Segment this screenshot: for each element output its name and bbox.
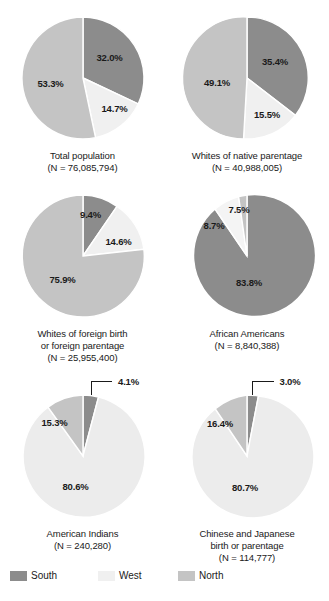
caption-title-line2: or foreign parentage xyxy=(37,340,127,352)
caption-subtitle: (N = 76,085,794) xyxy=(48,162,118,174)
caption-title: Whites of foreign birth xyxy=(37,328,127,340)
pie-graphic: 32.0% 14.7% 53.3% xyxy=(18,13,148,143)
chart-caption: Chinese and Japanese birth or parentage … xyxy=(199,528,294,564)
slice-north xyxy=(183,17,247,139)
caption-title: Total population xyxy=(48,150,118,162)
caption-subtitle: (N = 8,840,388) xyxy=(210,340,285,352)
pie-svg xyxy=(18,13,148,143)
caption-title: Whites of native parentage xyxy=(192,150,302,162)
pie-chart-figure: 32.0% 14.7% 53.3% Total population (N = … xyxy=(0,0,329,601)
pie-graphic: 9.4% 14.6% 75.9% xyxy=(18,191,148,321)
legend-label-west: West xyxy=(119,570,142,581)
pie-svg xyxy=(18,391,148,521)
pie-chart-whites-native-parentage: 35.4% 15.5% 49.1% Whites of native paren… xyxy=(165,0,329,175)
caption-title-line2: birth or parentage xyxy=(199,540,294,552)
legend-item-north: North xyxy=(178,570,223,581)
pie-chart-whites-foreign-birth: 9.4% 14.6% 75.9% Whites of foreign birth… xyxy=(0,175,165,355)
chart-caption: American Indians (N = 240,280) xyxy=(47,528,119,552)
chart-legend: South West North xyxy=(0,570,329,588)
caption-title: African Americans xyxy=(210,328,285,340)
leader-line-south xyxy=(253,381,274,382)
legend-swatch-west xyxy=(98,571,115,581)
pie-graphic: 7.5% 8.7% 83.8% xyxy=(182,191,312,321)
pie-chart-total-population: 32.0% 14.7% 53.3% Total population (N = … xyxy=(0,0,165,175)
leader-tick-south xyxy=(252,381,253,395)
legend-item-south: South xyxy=(10,570,57,581)
pie-svg xyxy=(182,191,312,321)
caption-subtitle: (N = 40,988,005) xyxy=(192,162,302,174)
pie-svg xyxy=(182,13,312,143)
pie-chart-american-indians: 4.1% 80.6% 15.3% American Indians (N = 2… xyxy=(0,355,165,565)
legend-item-west: West xyxy=(98,570,142,581)
slice-label-south: 3.0% xyxy=(280,376,301,387)
pie-graphic: 35.4% 15.5% 49.1% xyxy=(182,13,312,143)
chart-caption: Total population (N = 76,085,794) xyxy=(48,150,118,174)
pie-svg xyxy=(18,191,148,321)
pie-graphic: 3.0% 80.7% 16.4% xyxy=(182,391,312,521)
chart-caption: Whites of native parentage (N = 40,988,0… xyxy=(192,150,302,174)
pie-svg xyxy=(182,391,312,521)
pie-chart-african-americans: 7.5% 8.7% 83.8% African Americans (N = 8… xyxy=(165,175,329,355)
slice-label-south: 4.1% xyxy=(118,376,139,387)
legend-label-south: South xyxy=(31,570,57,581)
caption-title: American Indians xyxy=(47,528,119,540)
legend-swatch-south xyxy=(10,571,27,581)
pie-chart-grid: 32.0% 14.7% 53.3% Total population (N = … xyxy=(0,0,329,565)
pie-graphic: 4.1% 80.6% 15.3% xyxy=(18,391,148,521)
chart-caption: African Americans (N = 8,840,388) xyxy=(210,328,285,352)
caption-subtitle: (N = 114,777) xyxy=(199,552,294,564)
legend-label-north: North xyxy=(199,570,223,581)
leader-line-south xyxy=(92,381,112,382)
legend-swatch-north xyxy=(178,571,195,581)
caption-subtitle: (N = 240,280) xyxy=(47,540,119,552)
leader-tick-south xyxy=(91,381,92,395)
pie-chart-chinese-japanese: 3.0% 80.7% 16.4% Chinese and Japanese bi… xyxy=(165,355,329,565)
caption-title: Chinese and Japanese xyxy=(199,528,294,540)
slice-south xyxy=(194,195,316,317)
